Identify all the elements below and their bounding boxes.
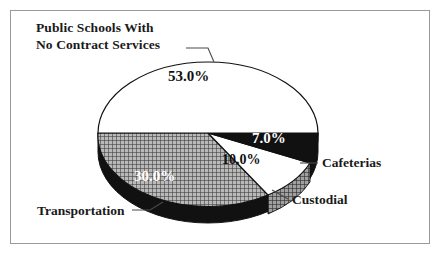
title-line-1: Public Schools With <box>36 20 160 35</box>
slice-label-transportation: Transportation <box>37 203 125 218</box>
slice-value-transportation: 30.0% <box>134 168 175 185</box>
title-line-2: No Contract Services <box>36 37 160 52</box>
slice-value-no-contract: 53.0% <box>168 68 209 85</box>
slice-value-custodial: 10.0% <box>222 152 261 168</box>
slice-value-cafeterias: 7.0% <box>252 130 286 147</box>
slice-label-custodial: Custodial <box>292 192 348 207</box>
slice-label-cafeterias: Cafeterias <box>322 155 381 170</box>
page-title: Public Schools With No Contract Services <box>36 20 160 52</box>
pie-chart-figure: Public Schools With No Contract Services… <box>0 0 442 256</box>
leader-line-no-contract <box>186 48 214 62</box>
